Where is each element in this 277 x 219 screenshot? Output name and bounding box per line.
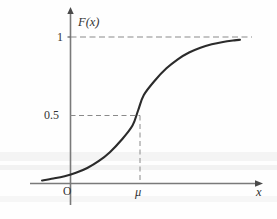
y-axis-arrowhead: [67, 7, 73, 14]
cdf-figure: 1 0.5 O μ F(x) x: [0, 0, 277, 219]
y-tick-label-0point5: 0.5: [44, 109, 59, 121]
cdf-curve: [42, 40, 240, 181]
y-tick-label-1: 1: [57, 31, 63, 43]
x-axis-label: x: [256, 186, 262, 199]
y-axis-label: F(x): [78, 16, 100, 29]
x-tick-label-mu: μ: [135, 186, 141, 199]
origin-label: O: [63, 186, 71, 198]
